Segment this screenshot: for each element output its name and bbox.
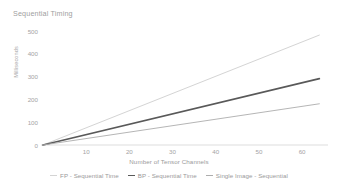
legend-label: FP - Sequential Time: [60, 172, 119, 179]
sequential-timing-chart: Sequential Timing Milliseconds 010020030…: [0, 0, 338, 189]
legend-line-swatch-icon: [128, 175, 135, 176]
legend-item[interactable]: FP - Sequential Time: [50, 172, 119, 179]
series-line: [43, 104, 319, 145]
legend-item[interactable]: BP - Sequential Time: [128, 172, 197, 179]
chart-legend: FP - Sequential TimeBP - Sequential Time…: [0, 172, 338, 179]
legend-line-swatch-icon: [50, 175, 57, 176]
legend-label: Single Image - Sequential: [216, 172, 288, 179]
series-line: [43, 35, 319, 145]
legend-line-swatch-icon: [206, 175, 213, 176]
series-line: [43, 79, 319, 145]
legend-label: BP - Sequential Time: [138, 172, 197, 179]
x-axis-label: Number of Tensor Channels: [0, 158, 338, 165]
legend-item[interactable]: Single Image - Sequential: [206, 172, 288, 179]
